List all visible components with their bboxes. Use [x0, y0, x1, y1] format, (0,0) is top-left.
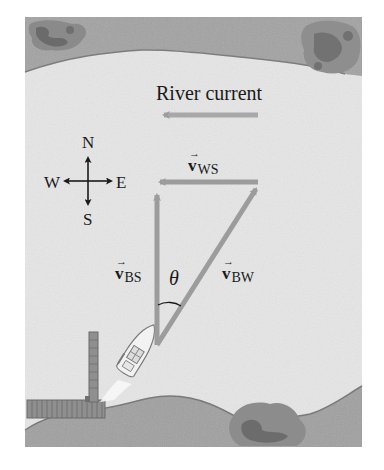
pier	[89, 332, 98, 402]
vector-v-bs-label: →vBS	[115, 265, 142, 285]
compass-west-label: W	[44, 174, 60, 191]
vector-v-bw-label: v→vBW	[222, 265, 254, 285]
bush-top-right	[301, 21, 360, 74]
compass-east-label: E	[116, 174, 126, 191]
compass-north-label: N	[82, 134, 94, 151]
diagram-canvas	[0, 0, 384, 470]
vector-v-ws-label: →vWS	[188, 157, 219, 177]
compass-south-label: S	[83, 211, 92, 228]
river-current-label: River current	[156, 83, 262, 103]
vector-arrow-glyph: →	[116, 256, 127, 267]
vector-arrow-glyph: →	[189, 148, 200, 159]
angle-theta-label: θ	[169, 268, 179, 288]
vector-diagram: River current N S E W →vWS →vBS v→vBW θ	[0, 0, 384, 470]
